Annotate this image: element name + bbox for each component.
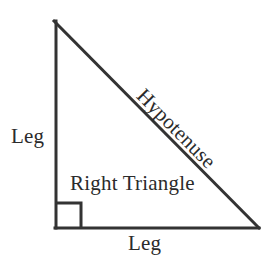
label-leg-horizontal: Leg bbox=[128, 233, 161, 254]
right-angle-square-icon bbox=[56, 203, 81, 228]
label-leg-vertical: Leg bbox=[11, 126, 44, 147]
label-right-triangle: Right Triangle bbox=[70, 173, 195, 194]
right-triangle-diagram: Leg Leg Right Triangle Hypotenuse bbox=[0, 0, 275, 263]
